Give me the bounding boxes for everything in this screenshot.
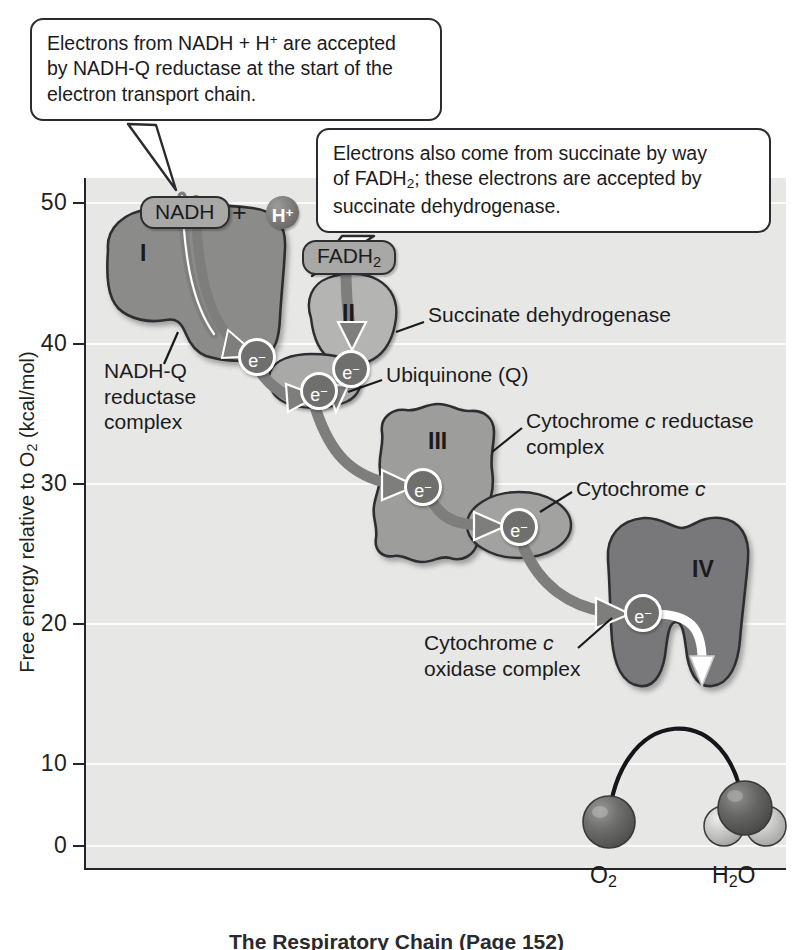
h-plus-sup: + xyxy=(285,205,293,220)
cytc-a: Cytochrome xyxy=(576,477,695,500)
nadhq-line2: reductase xyxy=(104,385,196,408)
electron-label-5: e xyxy=(510,521,520,541)
complex-III-numeral: III xyxy=(428,428,447,455)
y-tick-10 xyxy=(73,763,84,765)
electron-sup-5: − xyxy=(520,520,528,535)
callout-1-line2: by NADH-Q reductase at the start of the xyxy=(47,57,393,79)
callout-2-line2a: of FADH xyxy=(333,167,407,189)
cytc-red-line2: complex xyxy=(526,435,604,458)
y-tick-40 xyxy=(73,343,84,345)
electron-label-3: e xyxy=(310,385,320,405)
electron-sup-2: − xyxy=(352,362,360,377)
y-axis-title: Free energy relative to O2 (kcal/mol) xyxy=(16,252,40,772)
x-axis-line xyxy=(84,868,786,870)
cytc-ox-a: Cytochrome xyxy=(424,631,543,654)
electron-complexIV: e− xyxy=(624,594,662,632)
cytc-red-italic-c: c xyxy=(645,409,656,432)
label-ubiquinone: Ubiquinone (Q) xyxy=(386,362,528,388)
label-cytochrome-c: Cytochrome c xyxy=(576,476,706,502)
fadh2-label: FADH xyxy=(317,244,373,267)
nadh-label: NADH xyxy=(155,200,215,223)
electron-sup-6: − xyxy=(644,606,652,621)
h2o-text-b: O xyxy=(738,862,756,888)
label-nadhq-reductase-complex: NADH-Q reductase complex xyxy=(104,358,196,435)
callout-fadh2: Electrons also come from succinate by wa… xyxy=(316,128,771,233)
y-tick-label-50: 50 xyxy=(7,189,67,216)
gridline-40 xyxy=(86,343,786,345)
callout-2-line3: succinate dehydrogenase. xyxy=(333,195,561,217)
electron-sup-1: − xyxy=(258,350,266,365)
label-cytochrome-c-oxidase-complex: Cytochrome c oxidase complex xyxy=(424,630,580,681)
electron-label-1: e xyxy=(248,351,258,371)
cytc-italic-c: c xyxy=(695,477,706,500)
y-tick-20 xyxy=(73,623,84,625)
nadhq-line3: complex xyxy=(104,410,182,433)
complex-II-numeral: II xyxy=(342,300,355,327)
figure-caption: The Respiratory Chain (Page 152) xyxy=(0,930,793,950)
callout-1-line1a: Electrons from NADH + H xyxy=(47,32,270,54)
electron-label-6: e xyxy=(634,607,644,627)
complex-IV-numeral: IV xyxy=(692,556,714,583)
y-axis-title-text: Free energy relative to O xyxy=(16,452,38,673)
y-axis-line xyxy=(84,178,86,870)
y-tick-50 xyxy=(73,202,84,204)
electron-sup-3: − xyxy=(320,384,328,399)
h-plus-label: H xyxy=(272,205,286,226)
cytc-ox-italic-c: c xyxy=(543,631,554,654)
h-plus-badge: H+ xyxy=(266,196,299,229)
callout-1-sup: + xyxy=(270,32,278,47)
fadh2-pill: FADH2 xyxy=(302,240,396,275)
callout-1-line1b: are accepted xyxy=(278,32,396,54)
plus-sign: + xyxy=(232,198,247,227)
y-tick-0 xyxy=(73,845,84,847)
label-succinate-dehydrogenase: Succinate dehydrogenase xyxy=(428,302,671,328)
cytc-red-a: Cytochrome xyxy=(526,409,645,432)
nadh-pill: NADH xyxy=(140,196,230,229)
fadh2-sub: 2 xyxy=(373,254,381,270)
label-h2o: H2O xyxy=(712,862,755,891)
o2-sub: 2 xyxy=(608,872,617,890)
y-tick-30 xyxy=(73,483,84,485)
callout-2-line2b: ; these electrons are accepted by xyxy=(414,167,701,189)
gridline-0 xyxy=(86,845,786,847)
callout-nadh: Electrons from NADH + H+ are accepted by… xyxy=(30,18,442,121)
electron-label-2: e xyxy=(342,363,352,383)
o2-text: O xyxy=(590,862,608,888)
complex-I-numeral: I xyxy=(140,240,146,267)
electron-label-4: e xyxy=(414,481,424,501)
electron-ubiquinone: e− xyxy=(300,372,338,410)
label-cytochrome-c-reductase-complex: Cytochrome c reductase complex xyxy=(526,408,754,459)
y-tick-label-0: 0 xyxy=(7,832,67,859)
callout-1-line3: electron transport chain. xyxy=(47,83,256,105)
cytc-ox-line2: oxidase complex xyxy=(424,657,580,680)
h2o-text-a: H xyxy=(712,862,729,888)
electron-complexIII: e− xyxy=(404,468,442,506)
label-o2: O2 xyxy=(590,862,617,891)
y-axis-title-sub: 2 xyxy=(24,444,40,452)
electron-complexII: e− xyxy=(332,350,370,388)
gridline-20 xyxy=(86,623,786,625)
electron-after-complexI: e− xyxy=(238,338,276,376)
electron-cytochrome-c: e− xyxy=(500,508,538,546)
cytc-red-b: reductase xyxy=(656,409,754,432)
figure-root: 50 40 30 20 10 0 Free energy relative to… xyxy=(0,0,793,950)
callout-2-line1: Electrons also come from succinate by wa… xyxy=(333,142,707,164)
gridline-10 xyxy=(86,763,786,765)
nadhq-line1: NADH-Q xyxy=(104,359,187,382)
y-axis-title-unit: (kcal/mol) xyxy=(16,351,38,443)
h2o-sub: 2 xyxy=(729,872,738,890)
electron-sup-4: − xyxy=(424,480,432,495)
